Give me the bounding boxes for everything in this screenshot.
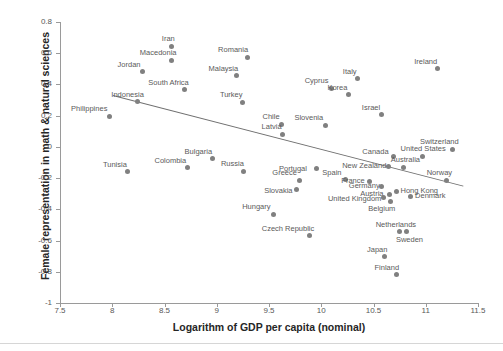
data-point-label: Tunisia	[103, 161, 127, 169]
data-point[interactable]	[241, 169, 246, 174]
data-point[interactable]	[182, 87, 187, 92]
data-point-label: Bulgaria	[185, 148, 213, 156]
data-point-label: Iran	[162, 35, 175, 43]
data-point[interactable]	[297, 178, 302, 183]
data-point-label: Finland	[374, 264, 399, 272]
data-point[interactable]	[210, 156, 215, 161]
data-point-label: Norway	[427, 169, 452, 177]
data-point-label: Czech Republic	[262, 225, 315, 233]
x-tick-label: 9.5	[249, 307, 289, 315]
data-point[interactable]	[404, 229, 409, 234]
y-tick-mark	[56, 178, 60, 179]
y-tick-mark	[56, 241, 60, 242]
data-point[interactable]	[394, 189, 399, 194]
data-point-label: Spain	[322, 169, 341, 177]
data-point[interactable]	[125, 169, 130, 174]
footer-divider	[0, 343, 503, 344]
data-point[interactable]	[379, 112, 384, 117]
data-point-label: Jordan	[118, 61, 141, 69]
data-point[interactable]	[271, 212, 276, 217]
data-point-label: South Africa	[148, 79, 188, 87]
data-point-label: Romania	[218, 46, 248, 54]
data-point[interactable]	[450, 147, 455, 152]
y-tick-mark	[56, 22, 60, 23]
data-point[interactable]	[435, 66, 440, 71]
data-point-label: Chile	[263, 113, 280, 121]
data-point-label: Australia	[391, 156, 420, 164]
data-point-label: Russia	[221, 160, 244, 168]
data-point[interactable]	[245, 55, 250, 60]
data-point[interactable]	[169, 58, 174, 63]
data-point-label: Italy	[343, 68, 357, 76]
data-point[interactable]	[234, 73, 239, 78]
x-tick-label: 11	[406, 307, 446, 315]
y-tick-label: 0.4	[0, 80, 52, 88]
data-point-label: Macedonia	[140, 49, 177, 57]
data-point-label: New Zealand	[342, 162, 386, 170]
data-point[interactable]	[185, 165, 190, 170]
data-point-label: Colombia	[154, 157, 186, 165]
y-tick-label: -0.2	[0, 174, 52, 182]
y-tick-mark	[56, 116, 60, 117]
data-point-label: Cyprus	[305, 77, 329, 85]
data-point[interactable]	[397, 229, 402, 234]
data-point-label: Japan	[367, 246, 387, 254]
data-point[interactable]	[314, 166, 319, 171]
data-point[interactable]	[387, 192, 392, 197]
data-point-label: Slovenia	[294, 114, 323, 122]
data-point[interactable]	[240, 100, 245, 105]
data-point-label: Malaysia	[209, 65, 239, 73]
y-tick-mark	[56, 272, 60, 273]
data-point-label: Portugal	[279, 165, 307, 173]
data-point-label: Slovakia	[264, 187, 292, 195]
data-point-label: Latvia	[262, 123, 282, 131]
data-point[interactable]	[401, 165, 406, 170]
y-tick-mark	[56, 209, 60, 210]
data-point-label: United States	[401, 145, 446, 153]
x-tick-label: 10	[301, 307, 341, 315]
scatter-chart: Female representation in math & natural …	[0, 0, 503, 351]
data-point[interactable]	[107, 114, 112, 119]
x-tick-label: 8	[92, 307, 132, 315]
data-point-label: Israel	[362, 104, 380, 112]
data-point[interactable]	[135, 99, 140, 104]
data-point[interactable]	[394, 272, 399, 277]
data-point[interactable]	[382, 254, 387, 259]
data-point[interactable]	[140, 69, 145, 74]
data-point-label: Ireland	[414, 58, 437, 66]
data-point[interactable]	[280, 132, 285, 137]
data-point-label: Switzerland	[420, 138, 459, 146]
data-point[interactable]	[294, 187, 299, 192]
data-point[interactable]	[386, 164, 391, 169]
x-tick-label: 10.5	[354, 307, 394, 315]
y-tick-label: -0.8	[0, 268, 52, 276]
data-point[interactable]	[408, 194, 413, 199]
data-point-label: Korea	[327, 84, 347, 92]
data-point[interactable]	[323, 123, 328, 128]
data-point[interactable]	[346, 92, 351, 97]
data-point-label: Belgium	[368, 205, 395, 213]
y-tick-label: -0.6	[0, 237, 52, 245]
x-tick-label: 7.5	[40, 307, 80, 315]
data-point-label: Indonesia	[111, 91, 144, 99]
data-point-label: Netherlands	[376, 221, 416, 229]
data-point-label: Hungary	[242, 203, 270, 211]
y-tick-label: 0.8	[0, 18, 52, 26]
data-point-label: Turkey	[220, 91, 243, 99]
data-point-label: United Kingdom	[328, 195, 381, 203]
x-tick-label: 8.5	[145, 307, 185, 315]
y-tick-label: -0.4	[0, 205, 52, 213]
y-tick-label: -1	[0, 299, 52, 307]
y-tick-mark	[56, 84, 60, 85]
x-axis-title: Logarithm of GDP per capita (nominal)	[60, 321, 478, 333]
data-point-label: Canada	[362, 148, 388, 156]
data-point[interactable]	[420, 154, 425, 159]
x-tick-label: 9	[197, 307, 237, 315]
y-tick-mark	[56, 53, 60, 54]
data-point[interactable]	[307, 233, 312, 238]
data-point[interactable]	[355, 76, 360, 81]
data-point[interactable]	[381, 195, 386, 200]
y-tick-label: 0.6	[0, 49, 52, 57]
y-tick-label: 0	[0, 143, 52, 151]
y-tick-mark	[56, 147, 60, 148]
